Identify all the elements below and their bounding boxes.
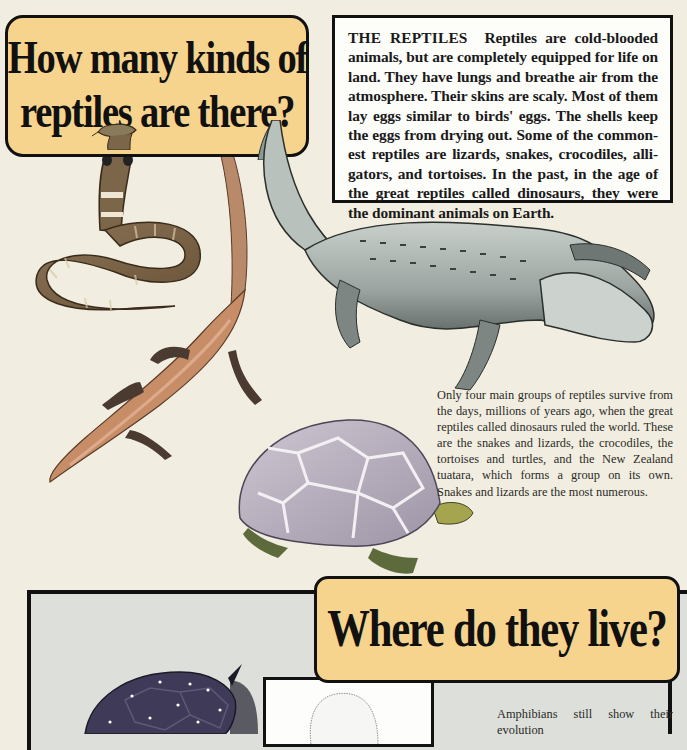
title-line-1: How many kinds of <box>7 28 306 86</box>
title-box-where-do-they-live: Where do they live? <box>314 576 680 683</box>
egg-sketch-icon <box>266 680 431 744</box>
body-paragraph: Only four main groups of reptiles surviv… <box>437 387 673 500</box>
intro-body: Reptiles are cold-blooded animals, but a… <box>348 29 658 221</box>
amphibians-paragraph: Amphibians still show their evolution <box>497 706 673 738</box>
cobra-head <box>90 120 150 150</box>
intro-text-box: THE REPTILES Reptiles are cold-blooded a… <box>332 15 673 203</box>
intro-lead: THE REPTILES <box>348 29 468 46</box>
intro-paragraph: THE REPTILES Reptiles are cold-blooded a… <box>348 28 658 222</box>
egg-sketch-box <box>263 677 434 747</box>
dark-turtle-illustration <box>80 660 260 734</box>
title-where-do-they-live: Where do they live? <box>327 603 666 655</box>
